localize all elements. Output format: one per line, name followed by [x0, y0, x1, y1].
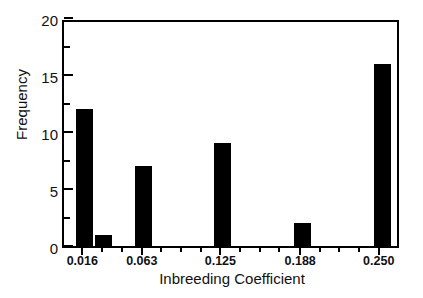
- x-tick-label: 0.250: [363, 254, 394, 268]
- y-axis-tick-labels: 05101520: [14, 20, 58, 248]
- bar: [95, 235, 112, 246]
- bar-series: [64, 22, 397, 246]
- x-tick-label: 0.016: [67, 254, 98, 268]
- y-tick-label: 20: [20, 12, 58, 29]
- x-minor-tick: [259, 246, 261, 252]
- x-minor-tick: [121, 246, 123, 252]
- x-minor-tick: [180, 246, 182, 252]
- y-major-tick: [64, 17, 73, 19]
- bar: [135, 166, 152, 246]
- x-tick-label: 0.125: [205, 254, 236, 268]
- y-tick-label: 5: [20, 183, 58, 200]
- y-tick-label: 15: [20, 69, 58, 86]
- plot-area: [62, 20, 399, 248]
- x-minor-tick: [160, 246, 162, 252]
- x-minor-tick: [101, 246, 103, 252]
- y-tick-label: 10: [20, 126, 58, 143]
- bar: [294, 223, 311, 246]
- x-minor-tick: [239, 246, 241, 252]
- chart-figure: Frequency 05101520 0.0160.0630.1250.1880…: [0, 0, 423, 298]
- x-tick-label: 0.063: [126, 254, 157, 268]
- bar: [374, 64, 391, 246]
- y-tick-label: 0: [20, 240, 58, 257]
- x-minor-tick: [358, 246, 360, 252]
- x-minor-tick: [319, 246, 321, 252]
- x-axis-title: Inbreeding Coefficient: [58, 270, 406, 287]
- bar: [76, 109, 93, 246]
- x-minor-tick: [200, 246, 202, 252]
- x-tick-label: 0.188: [285, 254, 316, 268]
- x-minor-tick: [338, 246, 340, 252]
- bar: [214, 143, 231, 246]
- x-minor-tick: [278, 246, 280, 252]
